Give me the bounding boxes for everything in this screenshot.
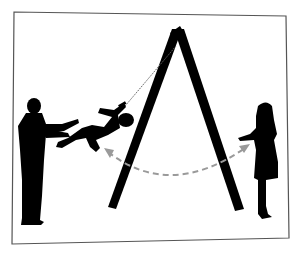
swing-illustration — [0, 0, 301, 258]
